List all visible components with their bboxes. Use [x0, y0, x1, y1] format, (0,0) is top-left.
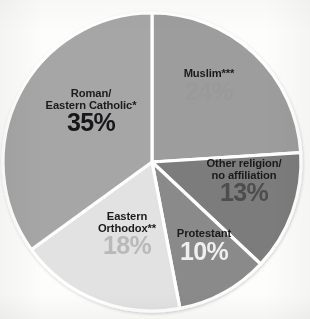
- pie-chart: Muslim*** 24% Roman/ Eastern Catholic* 3…: [0, 0, 310, 319]
- slice-value-roman-catholic: 35%: [24, 109, 158, 135]
- slice-label-other-religion: Other religion/ no affiliation 13%: [186, 158, 302, 205]
- slice-label-roman-catholic: Roman/ Eastern Catholic* 35%: [24, 88, 158, 135]
- slice-label-muslim: Muslim*** 24%: [155, 68, 263, 104]
- slice-value-muslim: 24%: [155, 78, 263, 104]
- slice-value-protestant: 10%: [161, 238, 247, 264]
- slice-value-other-religion: 13%: [186, 179, 302, 205]
- slice-label-protestant: Protestant 10%: [161, 228, 247, 264]
